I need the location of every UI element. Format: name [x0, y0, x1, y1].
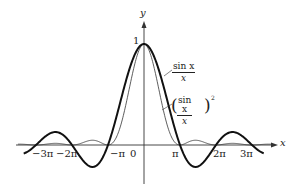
sinc-squared-denominator: x: [177, 116, 192, 126]
x-axis-label: x: [280, 138, 286, 148]
paren-right: ): [204, 97, 211, 114]
x-tick-origin: 0: [130, 149, 136, 159]
y-tick-1: 1: [133, 36, 139, 46]
x-tick-neg3pi: −3π: [32, 149, 53, 159]
x-axis-arrow-icon: [271, 143, 278, 148]
sinc-label-denominator: x: [172, 73, 195, 83]
sinc-squared-curve: [18, 44, 272, 145]
x-tick-neg2pi: −2π: [56, 149, 77, 159]
sinc-squared-numerator: sin x: [177, 96, 192, 116]
x-tick-pi: π: [172, 149, 179, 159]
plot-area: [0, 0, 296, 194]
exponent: 2: [211, 95, 215, 101]
sinc-squared-fraction: sin x x: [177, 96, 192, 126]
y-axis-arrow-icon: [142, 21, 147, 28]
sinc-label: sin x x: [172, 62, 195, 83]
x-tick-3pi: 3π: [240, 149, 253, 159]
sinc-leader-line: [164, 70, 172, 76]
y-axis-label: y: [140, 8, 146, 18]
sinc-label-numerator: sin x: [172, 62, 195, 73]
x-tick-2pi: 2π: [213, 149, 226, 159]
x-tick-negpi: −π: [110, 149, 125, 159]
